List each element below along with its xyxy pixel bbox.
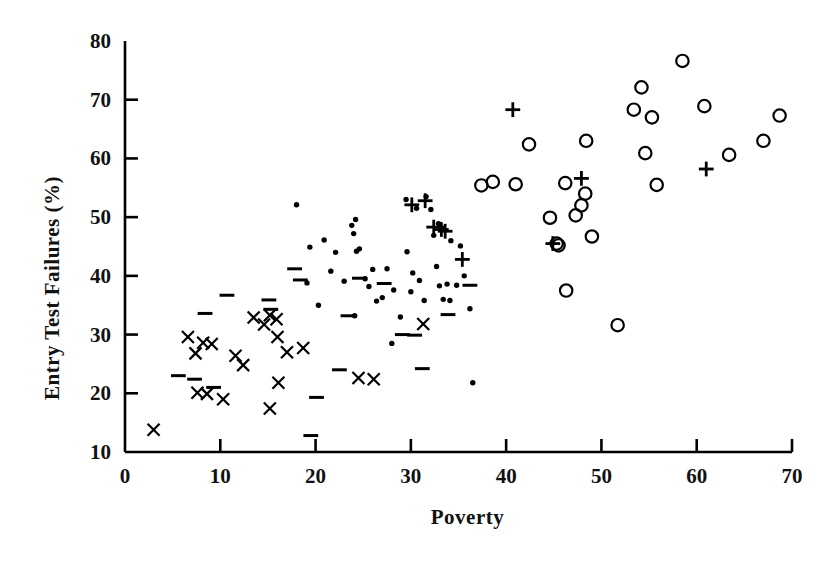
data-point-+ — [505, 102, 520, 117]
data-point-o — [611, 319, 623, 331]
data-point-x — [297, 342, 309, 354]
data-point-. — [437, 283, 442, 288]
data-point-o — [544, 212, 556, 224]
data-point-x — [417, 318, 429, 330]
data-point-o — [509, 178, 521, 190]
data-point-x — [190, 347, 202, 359]
data-point-. — [458, 243, 463, 248]
data-point-. — [304, 280, 309, 285]
data-point-o — [586, 230, 598, 242]
data-point-o — [639, 147, 651, 159]
data-point-x — [272, 377, 284, 389]
y-tick-label: 20 — [90, 383, 111, 404]
data-point-x — [352, 372, 364, 384]
data-point-. — [404, 249, 409, 254]
y-tick-label: 10 — [90, 442, 111, 463]
y-tick-label: 40 — [90, 265, 111, 286]
data-point-. — [362, 276, 367, 281]
data-point-. — [321, 237, 326, 242]
y-tick-label: 50 — [90, 207, 111, 228]
data-point-. — [384, 266, 389, 271]
data-point-o — [773, 109, 785, 121]
data-point-x — [271, 313, 283, 325]
data-point-. — [391, 287, 396, 292]
y-tick-label: 60 — [90, 148, 111, 169]
data-point-. — [353, 217, 358, 222]
data-point-. — [448, 238, 453, 243]
data-point-. — [380, 295, 385, 300]
data-point-x — [237, 359, 249, 371]
x-tick-label: 10 — [210, 466, 231, 487]
data-point-o — [723, 149, 735, 161]
data-point-. — [328, 268, 333, 273]
data-point-. — [366, 284, 371, 289]
x-tick-label: 30 — [400, 466, 421, 487]
data-point-. — [316, 303, 321, 308]
data-point-. — [408, 289, 413, 294]
data-point-. — [441, 297, 446, 302]
data-point-. — [352, 313, 357, 318]
data-point-. — [403, 197, 408, 202]
data-point-x — [148, 424, 160, 436]
data-point-. — [307, 244, 312, 249]
data-point-. — [341, 278, 346, 283]
x-axis-ticks — [220, 439, 792, 452]
data-point-. — [414, 206, 419, 211]
data-point-o — [580, 135, 592, 147]
data-point-. — [447, 298, 452, 303]
data-point-+ — [699, 162, 714, 177]
data-point-x — [368, 373, 380, 385]
data-point-. — [467, 306, 472, 311]
y-axis-ticks — [125, 100, 138, 394]
data-point-. — [421, 298, 426, 303]
data-point-. — [370, 267, 375, 272]
x-tick-label: 40 — [496, 466, 517, 487]
data-point-. — [434, 264, 439, 269]
data-point-o — [698, 100, 710, 112]
data-point-o — [579, 187, 591, 199]
data-point-x — [281, 346, 293, 358]
x-tick-label: 0 — [120, 466, 131, 487]
data-markers — [148, 55, 786, 436]
data-point-o — [487, 176, 499, 188]
x-tick-label: 70 — [782, 466, 803, 487]
data-point-. — [462, 273, 467, 278]
data-point-x — [264, 403, 276, 415]
data-point-. — [351, 231, 356, 236]
scatter-plot-figure: Entry Test Failures (%) Poverty 10203040… — [0, 0, 839, 571]
data-point-o — [560, 284, 572, 296]
x-tick-label: 50 — [591, 466, 612, 487]
data-point-o — [650, 179, 662, 191]
data-point-x — [201, 388, 213, 400]
data-point-. — [374, 298, 379, 303]
data-point-. — [444, 281, 449, 286]
y-tick-label: 30 — [90, 324, 111, 345]
data-point-o — [523, 138, 535, 150]
data-point-x — [248, 312, 260, 324]
data-point-. — [333, 250, 338, 255]
data-point-. — [349, 223, 354, 228]
y-tick-label: 70 — [90, 89, 111, 110]
x-tick-label: 60 — [686, 466, 707, 487]
data-point-. — [410, 270, 415, 275]
data-point-o — [757, 135, 769, 147]
data-point-o — [559, 177, 571, 189]
data-point-x — [230, 350, 242, 362]
data-point-. — [357, 246, 362, 251]
data-point-+ — [418, 193, 433, 208]
data-point-o — [575, 199, 587, 211]
data-point-. — [470, 380, 475, 385]
data-point-o — [635, 81, 647, 93]
data-point-. — [454, 283, 459, 288]
data-point-x — [206, 338, 218, 350]
data-point-o — [628, 103, 640, 115]
data-point-x — [271, 331, 283, 343]
data-point-o — [676, 55, 688, 67]
data-point-x — [182, 331, 194, 343]
data-point-. — [428, 207, 433, 212]
data-point-. — [398, 314, 403, 319]
data-point-. — [417, 278, 422, 283]
data-point-x — [217, 393, 229, 405]
y-tick-label: 80 — [90, 31, 111, 52]
x-tick-label: 20 — [305, 466, 326, 487]
